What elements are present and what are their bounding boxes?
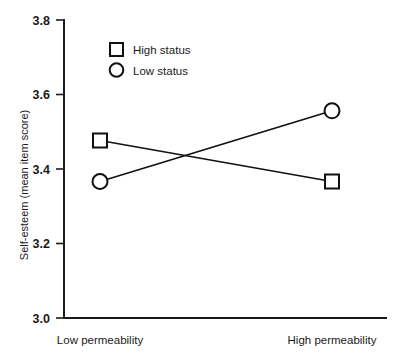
y-tick-label-3-0: 3.0	[33, 312, 50, 326]
legend-label-high-status: High status	[133, 44, 191, 56]
chart-legend: High status Low status	[110, 43, 191, 77]
y-tick-label-3-4: 3.4	[33, 163, 50, 177]
y-tick-label-3-8: 3.8	[33, 14, 50, 28]
square-marker-icon	[110, 43, 123, 56]
data-point-low-status-high-permeability[interactable]	[325, 103, 340, 118]
legend-entry-high-status[interactable]: High status	[110, 43, 191, 56]
data-point-high-status-low-permeability[interactable]	[93, 134, 107, 148]
chart-figure: 3.8 3.6 3.4 3.2 3.0 Self-esteem (mean it…	[0, 0, 402, 364]
x-tick-label-low-permeability: Low permeability	[57, 334, 144, 346]
legend-label-low-status: Low status	[133, 65, 188, 77]
circle-marker-icon	[110, 63, 124, 77]
y-axis-title: Self-esteem (mean item score)	[18, 110, 30, 260]
data-point-high-status-high-permeability[interactable]	[325, 175, 339, 189]
data-point-low-status-low-permeability[interactable]	[93, 174, 108, 189]
legend-entry-low-status[interactable]: Low status	[110, 63, 189, 77]
x-tick-label-high-permeability: High permeability	[288, 334, 377, 346]
y-tick-label-3-2: 3.2	[33, 237, 50, 251]
y-tick-label-3-6: 3.6	[33, 88, 50, 102]
line-chart-canvas: 3.8 3.6 3.4 3.2 3.0 Self-esteem (mean it…	[0, 0, 402, 364]
